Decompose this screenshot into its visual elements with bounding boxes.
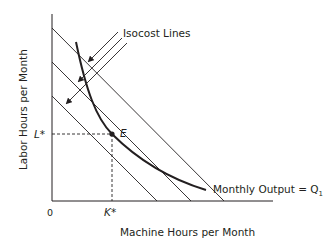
isoquant-subscript: 1 [319, 190, 323, 198]
y-axis-label: Labor Hours per Month [17, 49, 29, 170]
isocost-line-low [52, 96, 157, 201]
isocost-isoquant-diagram: Isocost Lines E L* K* 0 Machine Hours pe… [0, 0, 332, 241]
equilibrium-point [109, 131, 114, 136]
isocost-label: Isocost Lines [123, 27, 190, 39]
point-e-label: E [120, 127, 127, 139]
k-star-label: K* [104, 206, 116, 218]
isoquant-label-text: Monthly Output = Q [213, 183, 319, 195]
l-star-label: L* [34, 128, 45, 140]
arrow-to-mid [79, 38, 122, 81]
origin-label: 0 [47, 207, 53, 218]
x-axis-label: Machine Hours per Month [120, 226, 255, 238]
isoquant-label: Monthly Output = Q1 [213, 183, 323, 198]
